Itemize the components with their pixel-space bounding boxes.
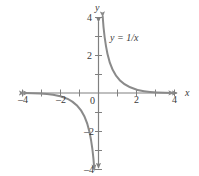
y-tick-label-neg2: –2 [84,127,94,137]
curve-branch-positive [103,17,174,94]
x-axis-label: x [185,88,189,98]
x-tick-label-neg2: –2 [56,95,66,105]
plot-area [0,0,199,176]
y-axis-label: y [95,3,99,13]
curve-equation-label: y = 1/x [110,33,138,43]
x-tick-label-neg4: –4 [18,95,28,105]
y-tick-label-2: 2 [87,51,92,61]
y-tick-label-4: 4 [87,13,92,23]
x-tick-label-4: 4 [172,95,177,105]
function-graph-figure: x y y = 1/x –4 –2 2 4 0 4 2 –2 –4 [0,0,199,176]
x-tick-label-2: 2 [134,95,139,105]
y-tick-label-neg4: –4 [84,165,94,175]
origin-label: 0 [90,96,95,106]
